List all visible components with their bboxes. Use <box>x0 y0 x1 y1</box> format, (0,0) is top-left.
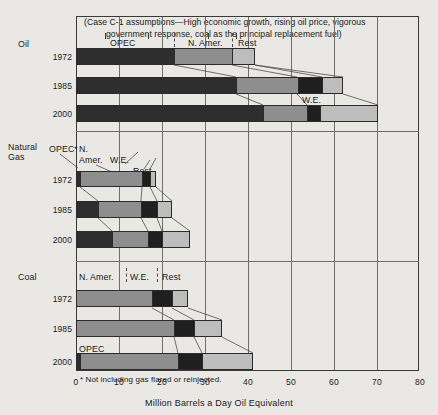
segment-coal-1985-rest <box>194 320 222 337</box>
bar-gas-1985 <box>76 201 172 218</box>
segment-gas-1972-we <box>142 171 150 187</box>
axis-tick-30: 30 <box>190 377 220 387</box>
year-label-gas-1985: 1985 <box>38 205 72 215</box>
segment-gas-1985-we <box>141 201 157 218</box>
bar-coal-1972 <box>76 290 188 307</box>
legend-label-coal-namer: N. Amer. <box>79 272 114 282</box>
year-label-coal-2000: 2000 <box>38 357 72 367</box>
chart-container: (Case C-1 assumptions—High economic grow… <box>0 0 438 415</box>
axis-tick-0: 0 <box>61 377 91 387</box>
segment-coal-1972-rest <box>172 290 188 307</box>
axis-tick-70: 70 <box>362 377 392 387</box>
segment-gas-1985-namer <box>98 201 141 218</box>
segment-coal-1985-we <box>174 320 194 337</box>
segment-gas-1972-rest <box>150 171 156 187</box>
segment-coal-1985-namer <box>76 320 174 337</box>
segment-coal-1972-namer <box>76 290 152 307</box>
year-label-gas-1972: 1972 <box>38 175 72 185</box>
segment-coal-2000-rest <box>202 353 253 370</box>
axis-tick-80: 80 <box>405 377 435 387</box>
segment-coal-1972-we <box>152 290 172 307</box>
segment-gas-2000-we <box>148 231 162 248</box>
axis-title-x: Million Barrels a Day Oil Equivalent <box>0 398 438 408</box>
axis-tick-20: 20 <box>147 377 177 387</box>
year-label-coal-1985: 1985 <box>38 324 72 334</box>
legend-label-coal-we: W.E. <box>130 272 149 282</box>
axis-tick-60: 60 <box>319 377 349 387</box>
axis-tick-50: 50 <box>276 377 306 387</box>
segment-coal-2000-we <box>178 353 202 370</box>
segment-gas-1985-rest <box>157 201 172 218</box>
legend-tick-coal-we-right <box>157 268 159 282</box>
segment-gas-2000-opec <box>76 231 112 248</box>
bar-coal-1985 <box>76 320 222 337</box>
bar-gas-1972 <box>76 171 156 187</box>
segment-gas-2000-namer <box>112 231 148 248</box>
year-label-coal-1972: 1972 <box>38 294 72 304</box>
segment-coal-2000-namer <box>80 353 178 370</box>
axis-tick-40: 40 <box>233 377 263 387</box>
segment-gas-1985-opec <box>76 201 98 218</box>
year-label-gas-2000: 2000 <box>38 235 72 245</box>
legend-label-coal-rest: Rest <box>162 272 181 282</box>
bar-gas-2000 <box>76 231 190 248</box>
bar-coal-2000 <box>76 353 253 370</box>
legend-tick-coal-we-left <box>126 268 128 282</box>
axis-tick-10: 10 <box>104 377 134 387</box>
group-label-coal: Coal <box>18 272 70 282</box>
segment-gas-1972-namer <box>80 171 142 187</box>
segment-gas-2000-rest <box>162 231 190 248</box>
